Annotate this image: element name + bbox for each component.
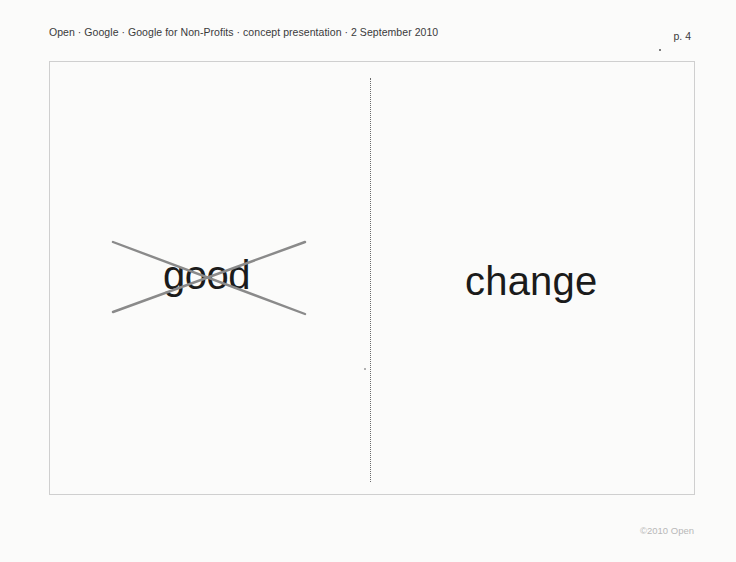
scan-speck: [659, 49, 661, 51]
scan-speck: [364, 368, 366, 370]
slide-panel-left: good: [49, 61, 370, 495]
highlight-word: change: [465, 261, 597, 301]
page-number: p. 4: [673, 30, 691, 42]
document-header-breadcrumb: Open · Google · Google for Non-Profits ·…: [49, 26, 438, 38]
copyright-footer: ©2010 Open: [640, 525, 694, 536]
crossed-out-word: good: [163, 255, 250, 295]
slide-panel-right: change: [371, 61, 695, 495]
